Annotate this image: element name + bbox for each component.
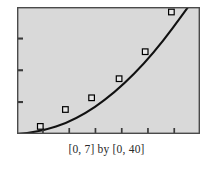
data-point-1 (38, 124, 44, 130)
plot-svg (17, 7, 200, 134)
figure-caption: [0, 7] by [0, 40] (0, 143, 213, 155)
data-point-2 (63, 107, 69, 113)
data-point-6 (169, 9, 175, 15)
plot-background (17, 7, 200, 134)
figure-container: [0, 7] by [0, 40] (0, 0, 213, 169)
data-point-3 (89, 95, 95, 101)
data-point-5 (142, 49, 148, 55)
plot-area (17, 7, 200, 134)
data-point-4 (116, 76, 122, 82)
